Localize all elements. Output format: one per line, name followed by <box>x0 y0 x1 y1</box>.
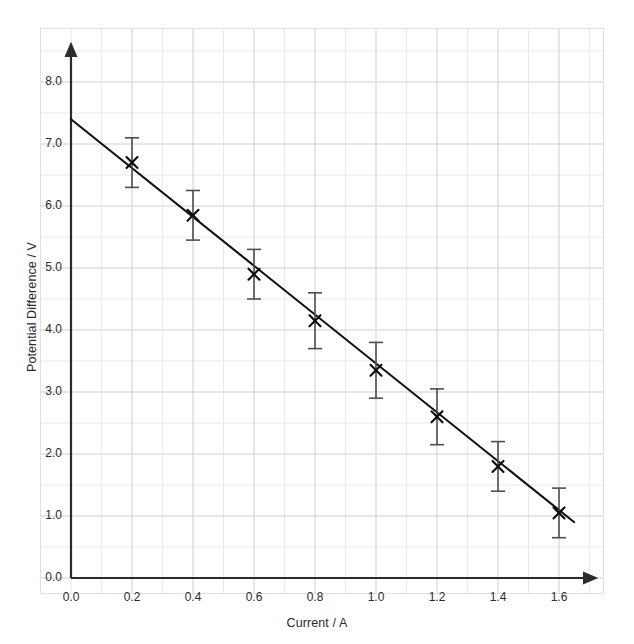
x-axis-title: Current / A <box>0 616 634 630</box>
chart-plot-area <box>0 0 634 644</box>
y-axis-tick-label: 7.0 <box>28 136 62 150</box>
x-axis-tick-label: 0.0 <box>51 590 91 604</box>
y-axis-title: Potential Difference / V <box>25 177 39 437</box>
x-axis-tick-label: 1.0 <box>356 590 396 604</box>
x-axis-tick-label: 1.4 <box>478 590 518 604</box>
x-axis-tick-label: 0.6 <box>234 590 274 604</box>
y-axis-tick-label: 1.0 <box>28 508 62 522</box>
x-axis-tick-label: 1.2 <box>417 590 457 604</box>
chart-title <box>0 0 634 4</box>
y-axis-tick-label: 2.0 <box>28 446 62 460</box>
y-axis-tick-label: 8.0 <box>28 74 62 88</box>
y-axis-tick-label: 0.0 <box>28 570 62 584</box>
grid-minor-lines <box>41 29 604 594</box>
grid-major-lines <box>41 29 604 594</box>
x-axis-tick-label: 1.6 <box>539 590 579 604</box>
x-axis-tick-label: 0.2 <box>112 590 152 604</box>
x-axis-tick-label: 0.8 <box>295 590 335 604</box>
chart-container: 0.01.02.03.04.05.06.07.08.0 0.00.20.40.6… <box>0 0 634 644</box>
x-axis-tick-label: 0.4 <box>173 590 213 604</box>
